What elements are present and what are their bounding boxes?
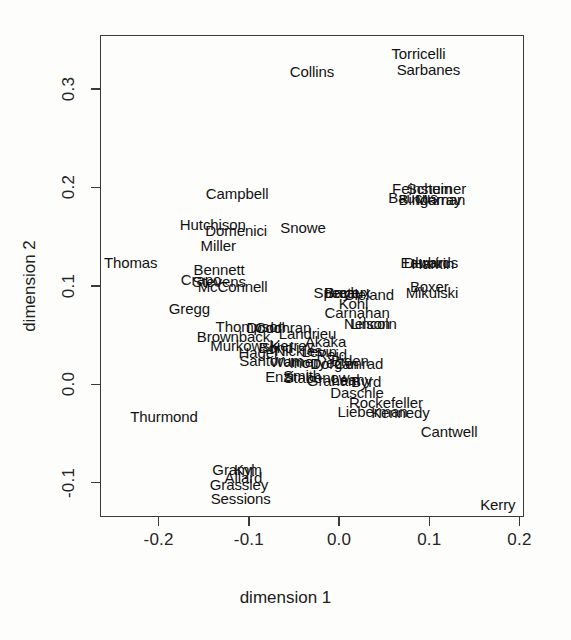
y-tick-label: 0.0 [59, 367, 79, 401]
data-point-label: Grassley [210, 476, 268, 491]
data-point-label: Lincoln [350, 316, 397, 331]
x-tick-label: -0.1 [234, 530, 264, 550]
y-axis-title: dimension 2 [20, 196, 40, 376]
x-tick-label: 0.0 [327, 530, 351, 550]
data-point-label: Thomas [104, 255, 158, 270]
scatter-plot-figure: TorricelliSarbanesCollinsFeinsteinSchume… [0, 0, 571, 640]
data-point-label: Sarbanes [397, 62, 460, 77]
data-point-label: Conrad [335, 355, 384, 370]
data-point-label: Kerry [480, 497, 515, 512]
plot-points-layer: TorricelliSarbanesCollinsFeinsteinSchume… [100, 35, 524, 517]
data-point-label: McConnell [198, 278, 268, 293]
y-tick-mark [91, 384, 100, 385]
data-point-label: Murray [415, 192, 461, 207]
data-point-label: Miller [201, 237, 236, 252]
x-tick-mark [338, 517, 339, 526]
x-tick-label: 0.2 [507, 530, 531, 550]
y-tick-mark [91, 285, 100, 286]
y-tick-label: 0.3 [59, 72, 79, 106]
data-point-label: Mikulski [406, 284, 459, 299]
y-tick-mark [91, 187, 100, 188]
data-point-label: Gregg [169, 301, 210, 316]
y-tick-label: 0.2 [59, 170, 79, 204]
data-point-label: Collins [290, 64, 334, 79]
data-point-label: Domenici [205, 222, 267, 237]
y-tick-label: 0.1 [59, 269, 79, 303]
x-axis-title: dimension 1 [0, 588, 571, 608]
data-point-label: Cantwell [421, 424, 478, 439]
x-tick-label: -0.2 [144, 530, 174, 550]
x-tick-mark [158, 517, 159, 526]
x-tick-label: 0.1 [417, 530, 441, 550]
x-tick-mark [429, 517, 430, 526]
data-point-label: Campbell [206, 186, 269, 201]
y-tick-mark [91, 482, 100, 483]
data-point-label: Kennedy [371, 404, 430, 419]
y-tick-mark [91, 88, 100, 89]
x-tick-mark [519, 517, 520, 526]
data-point-label: Torricelli [391, 45, 445, 60]
x-tick-mark [248, 517, 249, 526]
data-point-label: Sessions [211, 491, 271, 506]
data-point-label: Thurmond [130, 408, 198, 423]
data-point-label: Harkin [412, 256, 455, 271]
data-point-label: Snowe [280, 219, 325, 234]
y-tick-label: -0.1 [59, 466, 79, 500]
